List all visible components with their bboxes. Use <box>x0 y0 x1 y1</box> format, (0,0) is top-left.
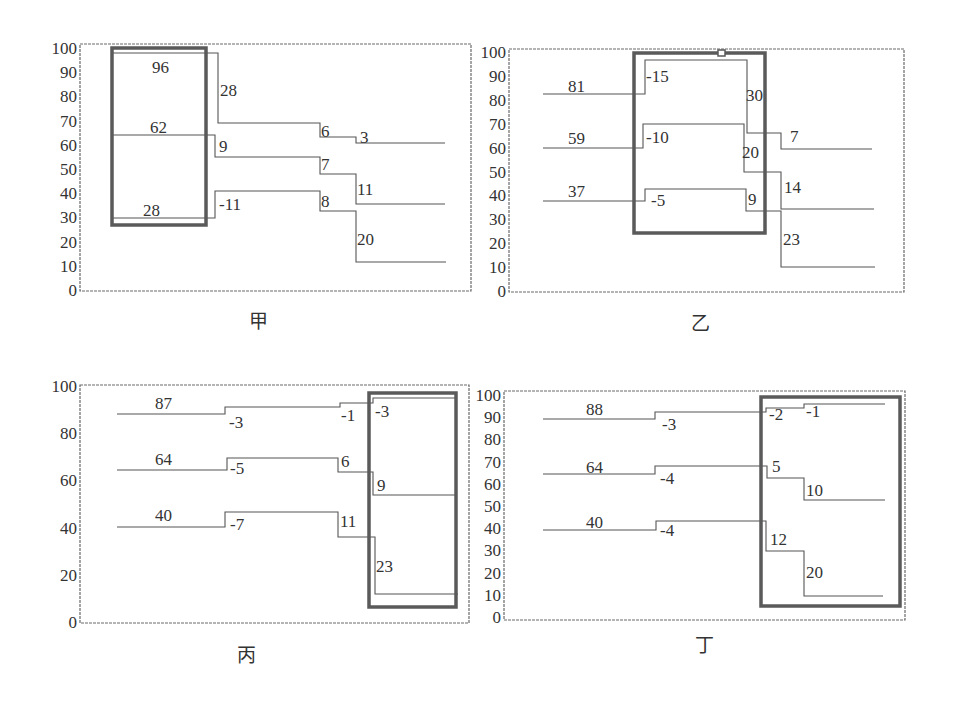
y-tick-label: 30 <box>489 210 506 229</box>
chart-panel-0: 010203040506070809010096286362971128-118… <box>52 39 472 332</box>
value-label: -2 <box>769 405 783 424</box>
chart-caption: 丁 <box>695 635 714 656</box>
y-tick-label: 80 <box>60 424 77 443</box>
y-tick-label: 20 <box>489 234 506 253</box>
y-tick-label: 10 <box>484 586 501 605</box>
chart-panel-2: 02040608010087-3-1-364-56940-71123丙 <box>52 377 470 666</box>
value-label: 81 <box>568 77 585 96</box>
value-label: -3 <box>229 413 243 432</box>
y-tick-label: 50 <box>60 160 77 179</box>
y-tick-label: 0 <box>493 608 502 627</box>
value-label: -3 <box>375 402 389 421</box>
value-label: 11 <box>340 512 356 531</box>
value-label: 37 <box>568 182 586 201</box>
series-line-top <box>543 60 872 149</box>
y-tick-label: 70 <box>484 453 501 472</box>
value-label: 23 <box>376 557 393 576</box>
y-tick-label: 40 <box>484 519 501 538</box>
y-tick-label: 10 <box>489 258 506 277</box>
series-line-middle <box>543 124 874 209</box>
value-label: -1 <box>806 402 820 421</box>
value-label: 6 <box>321 122 330 141</box>
y-tick-label: 20 <box>484 564 501 583</box>
y-tick-label: 40 <box>489 186 506 205</box>
chart-panel-1: 010203040506070809010081-1530759-1020143… <box>481 43 905 334</box>
value-label: 64 <box>155 450 173 469</box>
value-label: 7 <box>321 155 330 174</box>
y-tick-label: 20 <box>60 566 77 585</box>
y-tick-label: 70 <box>489 115 506 134</box>
value-label: 12 <box>770 530 787 549</box>
plot-frame <box>80 44 471 291</box>
value-label: 88 <box>586 400 603 419</box>
value-label: -5 <box>230 459 244 478</box>
y-tick-label: 10 <box>60 257 77 276</box>
y-axis: 0102030405060708090100 <box>476 386 502 627</box>
y-tick-label: 100 <box>481 43 507 62</box>
value-label: 5 <box>772 457 781 476</box>
series-line-bottom <box>543 189 875 267</box>
value-label: 40 <box>155 506 172 525</box>
chart-caption: 乙 <box>691 313 710 334</box>
highlight-box <box>761 397 900 606</box>
value-label: 7 <box>790 127 799 146</box>
value-label: 23 <box>783 230 800 249</box>
y-tick-label: 100 <box>52 377 78 396</box>
value-label: 59 <box>568 129 585 148</box>
value-label: 96 <box>152 58 169 77</box>
step-chart-figure: 010203040506070809010096286362971128-118… <box>0 0 958 701</box>
value-label: 28 <box>220 81 237 100</box>
y-tick-label: 30 <box>60 208 77 227</box>
y-tick-label: 80 <box>484 430 501 449</box>
value-label: -10 <box>646 128 669 147</box>
y-tick-label: 0 <box>69 281 78 300</box>
y-tick-label: 60 <box>489 139 506 158</box>
chart-caption: 丙 <box>237 645 256 666</box>
plot-frame <box>80 385 469 623</box>
value-label: 40 <box>586 513 603 532</box>
y-tick-label: 20 <box>60 233 77 252</box>
value-label: 6 <box>341 452 350 471</box>
value-label: -4 <box>660 521 675 540</box>
box-marker <box>718 50 725 56</box>
value-label: 28 <box>143 201 160 220</box>
y-tick-label: 100 <box>52 39 78 58</box>
y-tick-label: 30 <box>484 541 501 560</box>
value-label: 8 <box>321 192 330 211</box>
value-label: 9 <box>748 190 757 209</box>
value-label: -4 <box>660 469 675 488</box>
chart-panel-3: 010203040506070809010088-3-2-164-451040-… <box>476 386 906 656</box>
plot-frame <box>504 391 905 620</box>
y-tick-label: 40 <box>60 519 77 538</box>
value-label: -11 <box>219 195 241 214</box>
y-tick-label: 90 <box>489 67 506 86</box>
y-tick-label: 80 <box>60 87 77 106</box>
y-tick-label: 60 <box>484 475 501 494</box>
y-axis: 0102030405060708090100 <box>481 43 507 301</box>
value-label: 20 <box>742 143 759 162</box>
y-tick-label: 90 <box>60 63 77 82</box>
y-axis: 020406080100 <box>52 377 78 632</box>
value-label: 20 <box>357 230 374 249</box>
value-label: -7 <box>230 515 245 534</box>
value-label: -3 <box>662 415 676 434</box>
y-tick-label: 60 <box>60 471 77 490</box>
y-tick-label: 100 <box>476 386 502 405</box>
value-label: 9 <box>377 476 386 495</box>
y-tick-label: 60 <box>60 136 77 155</box>
y-tick-label: 50 <box>484 497 501 516</box>
y-axis: 0102030405060708090100 <box>52 39 78 300</box>
value-label: 9 <box>219 137 228 156</box>
value-label: -15 <box>646 67 669 86</box>
y-tick-label: 50 <box>489 163 506 182</box>
value-label: -1 <box>341 406 355 425</box>
value-label: 11 <box>357 180 373 199</box>
value-label: -5 <box>651 191 665 210</box>
value-label: 10 <box>806 481 823 500</box>
value-label: 62 <box>150 118 167 137</box>
y-tick-label: 70 <box>60 112 77 131</box>
value-label: 64 <box>586 458 604 477</box>
series-line-middle <box>112 135 445 204</box>
value-label: 14 <box>784 178 802 197</box>
value-label: 3 <box>360 128 369 147</box>
